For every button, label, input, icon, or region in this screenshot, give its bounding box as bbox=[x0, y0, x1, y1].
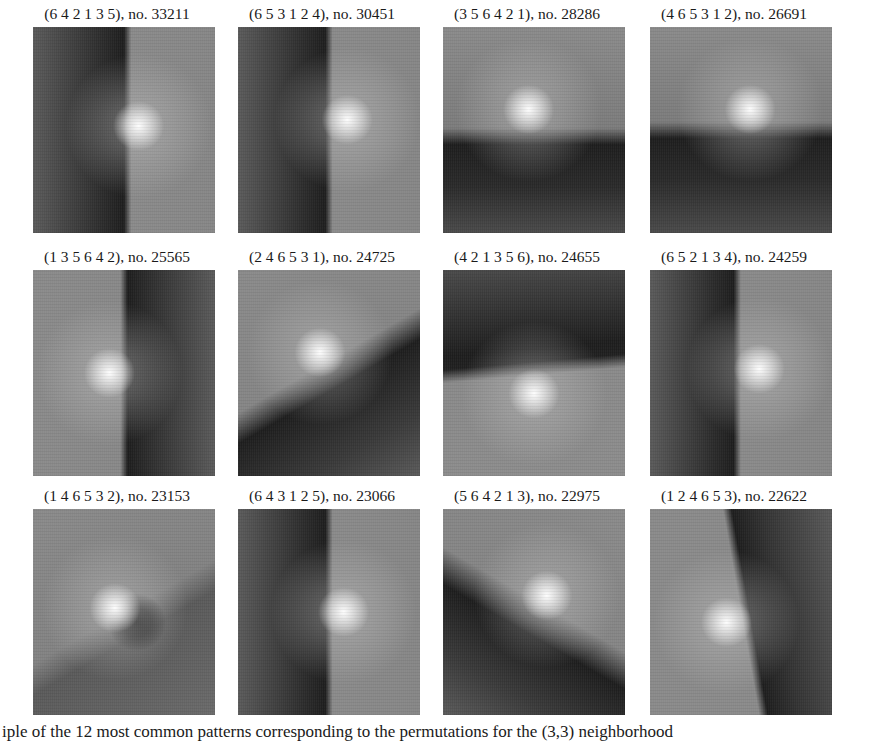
grayscale-pattern-image bbox=[238, 27, 420, 233]
figure-panel: (5 6 4 2 1 3), no. 22975 bbox=[429, 487, 625, 717]
panel-label: (1 4 6 5 3 2), no. 23153 bbox=[19, 487, 215, 505]
panel-label: (1 3 5 6 4 2), no. 25565 bbox=[19, 248, 215, 266]
panel-label: (6 4 2 1 3 5), no. 33211 bbox=[19, 5, 215, 23]
grayscale-pattern-image bbox=[238, 509, 420, 715]
grayscale-pattern-image bbox=[33, 509, 215, 715]
figure-panel: (3 5 6 4 2 1), no. 28286 bbox=[429, 5, 625, 235]
figure-panel: (6 5 2 1 3 4), no. 24259 bbox=[636, 248, 832, 478]
grayscale-pattern-image bbox=[650, 509, 832, 715]
panel-label: (3 5 6 4 2 1), no. 28286 bbox=[429, 5, 625, 23]
figure-panel: (6 4 3 1 2 5), no. 23066 bbox=[224, 487, 420, 717]
grayscale-pattern-image bbox=[33, 270, 215, 476]
figure-panel: (4 6 5 3 1 2), no. 26691 bbox=[636, 5, 832, 235]
grayscale-pattern-image bbox=[443, 27, 625, 233]
figure-panel: (2 4 6 5 3 1), no. 24725 bbox=[224, 248, 420, 478]
grayscale-pattern-image bbox=[650, 270, 832, 476]
panel-label: (1 2 4 6 5 3), no. 22622 bbox=[636, 487, 832, 505]
figure-panel: (6 5 3 1 2 4), no. 30451 bbox=[224, 5, 420, 235]
figure-panel: (6 4 2 1 3 5), no. 33211 bbox=[19, 5, 215, 235]
panel-label: (4 6 5 3 1 2), no. 26691 bbox=[636, 5, 832, 23]
figure-caption: iple of the 12 most common patterns corr… bbox=[2, 722, 869, 742]
panel-label: (6 4 3 1 2 5), no. 23066 bbox=[224, 487, 420, 505]
figure-panel: (1 3 5 6 4 2), no. 25565 bbox=[19, 248, 215, 478]
grayscale-pattern-image bbox=[238, 270, 420, 476]
grayscale-pattern-image bbox=[650, 27, 832, 233]
panel-label: (5 6 4 2 1 3), no. 22975 bbox=[429, 487, 625, 505]
figure-panel: (1 2 4 6 5 3), no. 22622 bbox=[636, 487, 832, 717]
grayscale-pattern-image bbox=[443, 270, 625, 476]
panel-label: (6 5 2 1 3 4), no. 24259 bbox=[636, 248, 832, 266]
panel-label: (6 5 3 1 2 4), no. 30451 bbox=[224, 5, 420, 23]
figure-panel: (4 2 1 3 5 6), no. 24655 bbox=[429, 248, 625, 478]
grayscale-pattern-image bbox=[443, 509, 625, 715]
panel-label: (2 4 6 5 3 1), no. 24725 bbox=[224, 248, 420, 266]
panel-label: (4 2 1 3 5 6), no. 24655 bbox=[429, 248, 625, 266]
figure-panel: (1 4 6 5 3 2), no. 23153 bbox=[19, 487, 215, 717]
grayscale-pattern-image bbox=[33, 27, 215, 233]
